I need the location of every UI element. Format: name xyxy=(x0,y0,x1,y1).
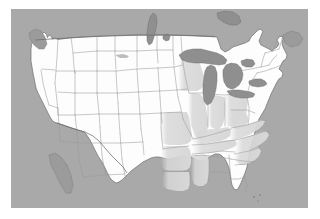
key-island-3 xyxy=(257,200,259,202)
state-louisiana[interactable] xyxy=(162,172,190,191)
map-panel xyxy=(11,9,308,208)
key-island-2 xyxy=(259,194,261,196)
state-mississippi[interactable] xyxy=(191,155,209,186)
us-map-svg xyxy=(11,9,308,208)
state-missouri[interactable] xyxy=(160,112,192,145)
georgian-bay xyxy=(241,59,255,67)
map-figure: Highlighted state Other state Water / ou… xyxy=(0,0,320,219)
key-island-1 xyxy=(253,196,255,198)
state-arkansas[interactable] xyxy=(161,146,191,171)
